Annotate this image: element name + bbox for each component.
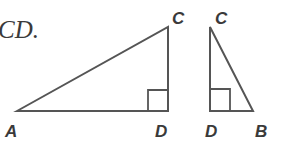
triangle-acd-outline <box>17 27 168 111</box>
similar-triangles-diagram: A C D C D B <box>0 0 283 146</box>
vertex-label-c1: C <box>172 9 185 28</box>
right-angle-marker-d1 <box>148 90 168 111</box>
triangle-cdb-outline <box>210 27 253 111</box>
triangle-acd: A C D <box>4 9 185 141</box>
triangle-cdb: C D B <box>205 9 267 141</box>
vertex-label-d2: D <box>205 122 217 141</box>
vertex-label-b: B <box>255 122 267 141</box>
right-angle-marker-d2 <box>210 89 230 111</box>
vertex-label-a: A <box>4 122 17 141</box>
vertex-label-c2: C <box>215 9 228 28</box>
vertex-label-d1: D <box>155 122 167 141</box>
